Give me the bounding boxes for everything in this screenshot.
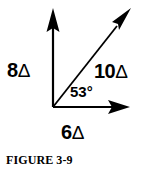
vertical-magnitude-label: 8Δ (7, 60, 30, 80)
resultant-magnitude-label: 10Δ (94, 61, 127, 81)
horizontal-magnitude-label: 6Δ (61, 122, 84, 142)
figure-3-9: 8Δ 10Δ 6Δ 53° FIGURE 3-9 (0, 0, 142, 174)
resultant-magnitude-number: 10 (94, 60, 115, 82)
resultant-magnitude-unit: Δ (115, 61, 127, 82)
vertical-magnitude-number: 8 (7, 59, 18, 81)
figure-caption: FIGURE 3-9 (6, 153, 73, 168)
angle-label: 53° (70, 84, 93, 99)
horizontal-magnitude-number: 6 (61, 121, 72, 143)
resultant-vector-arrowhead (112, 8, 131, 30)
vector-vertical-component (47, 8, 60, 107)
horizontal-magnitude-unit: Δ (72, 122, 84, 143)
vertical-magnitude-unit: Δ (18, 60, 30, 81)
vector-horizontal-component (53, 100, 130, 114)
